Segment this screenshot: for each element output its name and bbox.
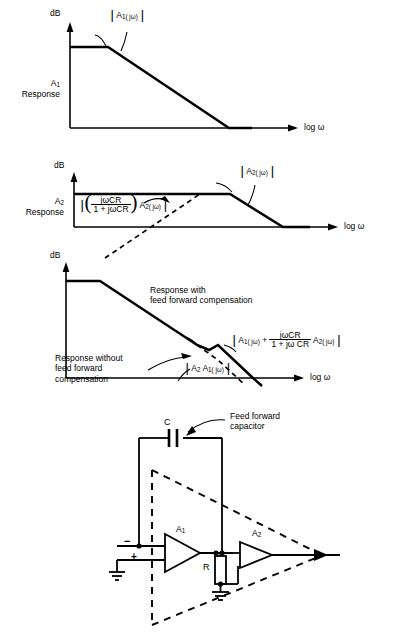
chart-1-x-axis-label: log ω bbox=[304, 122, 324, 132]
combined-term1-arg: ( jω) bbox=[247, 338, 259, 345]
fraction-numerator: jωCR bbox=[91, 196, 130, 205]
chart-2-side-label-sub: 2 bbox=[60, 199, 64, 206]
resistor-designator-label: R bbox=[203, 562, 210, 573]
capacitor-note-line1: Feed forward bbox=[230, 411, 280, 421]
chart-3-note-with: Response with feed forward compensation bbox=[150, 285, 253, 306]
chart-1-side-label-sub: 1 bbox=[56, 81, 60, 88]
circuit-wiring bbox=[117, 429, 340, 592]
magnitude-bar-left: | bbox=[185, 361, 189, 376]
chart-1-y-axis-label: dB bbox=[50, 8, 60, 18]
uncomp-a2-sub: 2 bbox=[197, 366, 201, 373]
chart-3-uncomp-label: | A2 A1( jω) | bbox=[185, 363, 231, 374]
chart-3-note-with-line2: feed forward compensation bbox=[150, 295, 253, 305]
chart-3-note-without-line2: feed forward bbox=[55, 363, 102, 373]
chart-1-curve-label-arg: ( jω) bbox=[125, 13, 137, 20]
stage1-amplifier-label: A1 bbox=[176, 524, 185, 535]
magnitude-bar-right: | bbox=[337, 332, 341, 347]
chart-2-curve-label: | A2( jω) | bbox=[240, 166, 275, 177]
magnitude-bar-left: | bbox=[232, 332, 236, 347]
chart-1-curve-label: | A1( jω) | bbox=[110, 10, 145, 21]
stage2-amplifier-label: A2 bbox=[252, 528, 261, 539]
figure-canvas: dB A1 Response | A1( jω) | log ω dB A2 R… bbox=[0, 0, 412, 644]
capacitor-note-line2: capacitor bbox=[230, 421, 265, 431]
combined-plus-sign: + bbox=[262, 335, 267, 345]
ground-symbol-input bbox=[109, 572, 125, 580]
fraction-numerator: jωCR bbox=[269, 331, 311, 340]
magnitude-bar-right: | bbox=[140, 8, 144, 23]
stage2-label-sub: 2 bbox=[258, 531, 262, 538]
chart-2-dashed-factor-arg: ( jω) bbox=[149, 203, 161, 210]
chart-1-side-label-response: Response bbox=[22, 89, 60, 99]
chart-2-curve-label-arg: ( jω) bbox=[255, 169, 267, 176]
chart-3-note-without: Response without feed forward compensati… bbox=[55, 353, 123, 384]
chart-2-side-label-response: Response bbox=[26, 207, 64, 217]
uncomp-arg: ( jω) bbox=[212, 366, 224, 373]
chart-3-combined-label: | A1( jω) + jωCR1 + jω CR A2( jω) | bbox=[232, 331, 341, 350]
stage1-label-sub: 1 bbox=[182, 527, 186, 534]
highpass-fraction: jωCR1 + jωCR bbox=[91, 196, 130, 215]
chart-2-x-axis-label: log ω bbox=[344, 221, 364, 231]
capacitor-designator-label: C bbox=[164, 417, 171, 428]
combined-fraction: jωCR1 + jω CR bbox=[269, 331, 311, 350]
chart-2-side-label: A2 Response bbox=[0, 196, 64, 217]
inverting-input-label: − bbox=[124, 535, 130, 548]
chart-1-side-label: A1 Response bbox=[0, 78, 60, 99]
capacitor-callout-note: Feed forward capacitor bbox=[230, 411, 280, 432]
fraction-denominator: 1 + jωCR bbox=[91, 204, 130, 214]
chart-3-note-without-line3: compensation bbox=[55, 374, 108, 384]
chart-3-y-axis-label: dB bbox=[50, 250, 60, 260]
chart-1-curve bbox=[70, 47, 252, 128]
magnitude-bar-right: | bbox=[270, 164, 274, 179]
magnitude-bar-left: | bbox=[110, 8, 114, 23]
diagram-linework bbox=[0, 0, 412, 644]
chart-3-x-axis-label: log ω bbox=[310, 372, 330, 382]
magnitude-bar-right: | bbox=[226, 361, 230, 376]
noninverting-input-label: + bbox=[131, 551, 137, 563]
magnitude-bar-right: | bbox=[163, 197, 167, 212]
chart-3-note-without-line1: Response without bbox=[55, 353, 123, 363]
magnitude-bar-left: | bbox=[240, 164, 244, 179]
capacitor-callout-leader bbox=[186, 420, 225, 436]
combined-term2-arg: ( jω) bbox=[322, 338, 334, 345]
chart-2-dashed-label: |(jωCR1 + jωCR) A2( jω) | bbox=[80, 196, 168, 215]
chart-2-y-axis-label: dB bbox=[54, 160, 64, 170]
chart-3-note-with-line1: Response with bbox=[150, 285, 206, 295]
fraction-denominator: 1 + jω CR bbox=[269, 339, 311, 349]
